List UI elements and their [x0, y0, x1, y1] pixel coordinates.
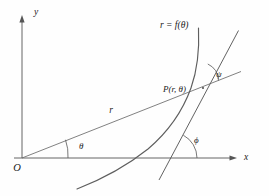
point-p-marker: [202, 87, 204, 89]
x-axis-label: x: [243, 152, 249, 162]
diagram-canvas: y x O r = f(θ) P(r, θ) r θ ϕ ψ: [0, 0, 269, 196]
radius-label: r: [109, 105, 113, 115]
psi-label: ψ: [216, 69, 222, 79]
origin-label: O: [13, 162, 21, 173]
point-label: P(r, θ): [162, 84, 186, 94]
theta-label: θ: [79, 141, 84, 151]
polar-diagram-figure: y x O r = f(θ) P(r, θ) r θ ϕ ψ: [0, 0, 269, 196]
phi-label: ϕ: [194, 135, 199, 145]
y-axis-label: y: [33, 7, 39, 17]
curve-equation-label: r = f(θ): [160, 20, 189, 31]
figure-background: [0, 0, 269, 196]
